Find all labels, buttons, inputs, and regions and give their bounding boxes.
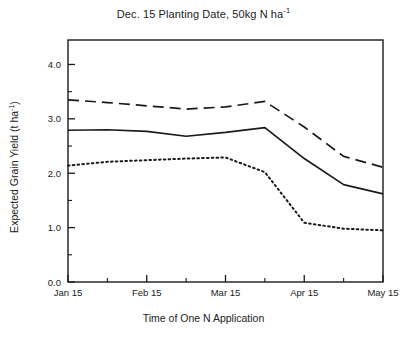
x-tick-label: Mar 15: [211, 287, 241, 298]
y-tick-label: 2.0: [48, 168, 61, 179]
y-tick-label: 0.0: [48, 277, 61, 288]
chart-figure: Dec. 15 Planting Date, 50kg N ha-1 Expec…: [0, 0, 407, 338]
y-tick-label: 4.0: [48, 59, 61, 70]
plot-area: 0.01.02.03.04.0 Jan 15Feb 15Mar 15Apr 15…: [0, 0, 407, 338]
x-axis-label: Time of One N Application: [0, 312, 407, 324]
y-axis-ticks: 0.01.02.03.04.0: [48, 59, 75, 288]
x-axis-ticks: Jan 15Feb 15Mar 15Apr 15May 15: [54, 275, 399, 298]
series-line-dotted: [68, 157, 383, 230]
x-tick-label: Jan 15: [54, 287, 83, 298]
x-tick-label: Feb 15: [132, 287, 162, 298]
y-tick-label: 3.0: [48, 113, 61, 124]
y-tick-label: 1.0: [48, 222, 61, 233]
x-tick-label: Apr 15: [290, 287, 318, 298]
data-series-group: [68, 100, 383, 231]
x-tick-label: May 15: [367, 287, 398, 298]
